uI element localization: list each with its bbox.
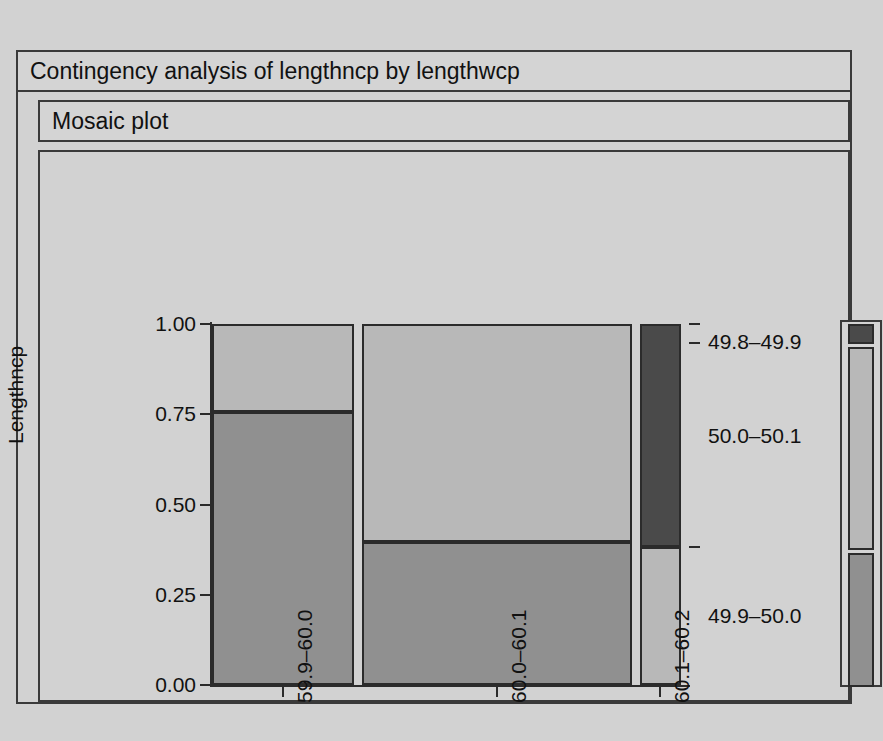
mosaic-tile-group	[212, 324, 688, 685]
y-tick-label: 1.00	[100, 312, 196, 336]
right-tick-mark	[689, 342, 700, 344]
mosaic-tile[interactable]	[362, 324, 632, 542]
legend-segment[interactable]	[848, 324, 874, 344]
mosaic-tile[interactable]	[212, 324, 354, 412]
row-category-label: 49.8–49.9	[708, 330, 801, 354]
x-tick-label: 60.0–60.1	[507, 610, 531, 703]
y-tick-label: 0.00	[100, 673, 196, 697]
mosaic-tile[interactable]	[362, 542, 632, 685]
mosaic-tile[interactable]	[212, 412, 354, 685]
mosaic-section-title-text: Mosaic plot	[52, 108, 168, 135]
analysis-title-bar[interactable]: Contingency analysis of lengthncp by len…	[16, 50, 852, 92]
y-tick-label: 0.75	[100, 402, 196, 426]
right-tick-mark	[689, 323, 700, 325]
x-tick-mark	[496, 686, 498, 697]
y-tick-mark	[200, 504, 211, 506]
mosaic-tile[interactable]	[640, 324, 681, 547]
analysis-title-text: Contingency analysis of lengthncp by len…	[30, 58, 520, 85]
x-tick-label: 59.9–60.0	[293, 610, 317, 703]
y-tick-label-group: 1.000.750.500.250.00	[66, 152, 196, 700]
x-tick-label: 60.1–60.2	[670, 610, 694, 703]
x-tick-mark	[659, 686, 661, 697]
y-tick-label: 0.50	[100, 493, 196, 517]
legend-segment[interactable]	[848, 553, 874, 687]
row-category-label: 50.0–50.1	[708, 424, 801, 448]
y-tick-label: 0.25	[100, 583, 196, 607]
x-tick-mark	[282, 686, 284, 697]
legend-segment[interactable]	[848, 347, 874, 550]
y-tick-mark	[200, 413, 211, 415]
y-tick-mark	[200, 323, 211, 325]
report-canvas: Contingency analysis of lengthncp by len…	[0, 0, 883, 741]
right-tick-mark	[689, 546, 700, 548]
y-axis-title: Lengthncp	[4, 346, 28, 444]
row-category-label: 49.9–50.0	[708, 604, 801, 628]
y-tick-mark	[200, 594, 211, 596]
mosaic-plot-panel: 1.000.750.500.250.00 Lengthncp 59.9–60.0…	[38, 150, 850, 702]
color-legend[interactable]	[840, 320, 882, 687]
mosaic-section-title-bar[interactable]: Mosaic plot	[38, 100, 850, 142]
y-tick-mark	[200, 684, 211, 686]
